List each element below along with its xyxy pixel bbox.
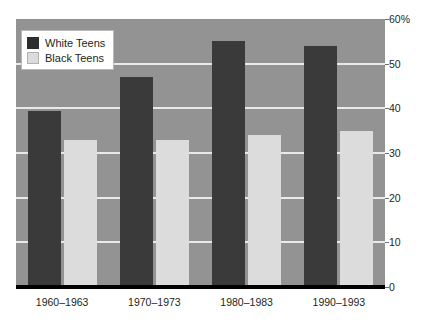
y-tick-mark [385,19,389,20]
bar-chart-figure: 0102030405060% 1960–19631970–19731980–19… [0,0,424,324]
bar-black-teens [64,140,97,287]
y-tick-label: 20 [389,193,401,204]
y-tick-mark [385,198,389,199]
legend-item-white-teens: White Teens [27,35,105,50]
y-tick-label: 60% [389,14,410,25]
x-tick-label: 1980–1983 [201,296,293,308]
y-tick-mark [385,242,389,243]
x-tick-label: 1990–1993 [293,296,385,308]
bar-black-teens [156,140,189,287]
y-tick-mark [385,108,389,109]
legend-swatch-white-teens [27,37,39,49]
bar-white-teens [212,41,245,287]
x-axis-labels: 1960–19631970–19731980–19831990–1993 [16,296,385,316]
y-tick-label: 10 [389,237,401,248]
y-tick-label: 30 [389,148,401,159]
y-tick-label: 0 [389,282,395,293]
x-axis-line [16,285,385,289]
bar-white-teens [120,77,153,287]
x-tick-label: 1960–1963 [16,296,108,308]
legend-label-black-teens: Black Teens [45,52,104,64]
bar-black-teens [340,131,373,287]
bar-black-teens [248,135,281,287]
x-tick-label: 1970–1973 [108,296,200,308]
y-tick-mark [385,64,389,65]
legend-label-white-teens: White Teens [45,37,105,49]
y-axis: 0102030405060% [389,0,424,324]
bar-white-teens [28,111,61,287]
bar-white-teens [304,46,337,287]
y-tick-mark [385,287,389,288]
y-tick-label: 50 [389,59,401,70]
y-tick-label: 40 [389,103,401,114]
legend-item-black-teens: Black Teens [27,50,105,65]
chart-legend: White Teens Black Teens [21,30,114,70]
legend-swatch-black-teens [27,52,39,64]
y-tick-mark [385,153,389,154]
